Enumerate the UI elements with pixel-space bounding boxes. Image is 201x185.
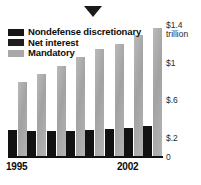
legend-swatch-mandatory-icon bbox=[8, 50, 24, 57]
bar-group-2002 bbox=[143, 24, 162, 156]
y-axis: $1.4 trillion $1 $.6 $.2 0 bbox=[166, 0, 201, 185]
chart-legend: Nondefense discretionary Net interest Ma… bbox=[8, 27, 141, 59]
legend-swatch-nondefense-icon bbox=[8, 29, 24, 36]
bar-dark-1999 bbox=[85, 130, 94, 156]
legend-item-mandatory: Mandatory bbox=[8, 48, 141, 59]
chart-figure: Nondefense discretionary Net interest Ma… bbox=[0, 0, 201, 185]
x-axis-label-start: 1995 bbox=[6, 161, 27, 172]
bar-dark-2001 bbox=[124, 128, 133, 156]
y-tick-0-6: $.6 bbox=[166, 96, 178, 105]
bar-dark-1998 bbox=[66, 131, 75, 156]
bar-dark-1996 bbox=[27, 131, 36, 156]
legend-swatch-net-interest-icon bbox=[8, 39, 24, 46]
y-tick-0-2: $.2 bbox=[166, 134, 178, 143]
bar-dark-2002 bbox=[143, 126, 152, 156]
y-tick-0: 0 bbox=[166, 153, 171, 162]
bar-mandatory-1997 bbox=[57, 66, 66, 156]
y-tick-1: $1 bbox=[166, 59, 175, 68]
legend-label-nondefense: Nondefense discretionary bbox=[28, 27, 141, 37]
bar-mandatory-1999 bbox=[95, 49, 104, 156]
down-triangle-marker-icon bbox=[84, 6, 102, 17]
x-axis-baseline bbox=[8, 156, 163, 158]
bar-mandatory-2000 bbox=[115, 44, 124, 156]
x-axis-label-end: 2002 bbox=[117, 161, 138, 172]
bar-mandatory-1998 bbox=[76, 57, 85, 156]
y-axis-unit-label: trillion bbox=[166, 30, 188, 39]
bar-mandatory-2002 bbox=[153, 28, 162, 156]
bar-dark-1995 bbox=[8, 130, 17, 156]
bar-dark-2000 bbox=[105, 129, 114, 156]
bar-dark-1997 bbox=[47, 131, 56, 156]
legend-item-nondefense-discretionary: Nondefense discretionary bbox=[8, 27, 141, 38]
y-tick-1-4: $1.4 trillion bbox=[166, 21, 188, 39]
bar-mandatory-1996 bbox=[37, 74, 46, 156]
legend-label-mandatory: Mandatory bbox=[28, 48, 75, 58]
legend-label-net-interest: Net interest bbox=[28, 38, 78, 48]
bar-mandatory-1995 bbox=[18, 82, 27, 156]
